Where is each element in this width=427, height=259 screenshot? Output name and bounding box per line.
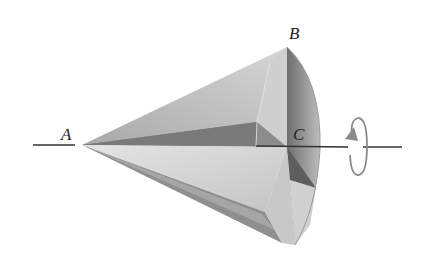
label-a: A — [60, 125, 72, 144]
cone-diagram: A B C — [0, 0, 427, 259]
label-c: C — [293, 125, 305, 144]
label-b: B — [289, 24, 300, 43]
